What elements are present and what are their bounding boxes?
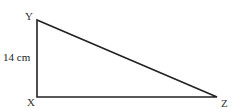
side-xy-length-label: 14 cm bbox=[3, 51, 31, 63]
vertex-label-z: Z bbox=[221, 97, 228, 109]
vertex-label-y: Y bbox=[25, 10, 33, 22]
vertex-label-x: X bbox=[27, 96, 35, 108]
triangle-diagram: Y X Z 14 cm bbox=[0, 0, 235, 109]
triangle-xyz bbox=[37, 20, 217, 97]
